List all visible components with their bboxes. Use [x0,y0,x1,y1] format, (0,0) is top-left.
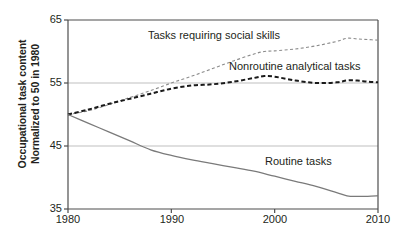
series-line-1 [68,76,378,115]
series-label-social-skills: Tasks requiring social skills [148,29,280,41]
series-label-routine-tasks: Routine tasks [265,155,332,167]
gridlines [68,83,378,146]
axis-lines [68,20,378,209]
chart-figure: Occupational task content Normalized to … [0,0,402,240]
axis-ticks [64,20,378,213]
series-label-nonroutine-analytical: Nonroutine analytical tasks [229,60,360,72]
